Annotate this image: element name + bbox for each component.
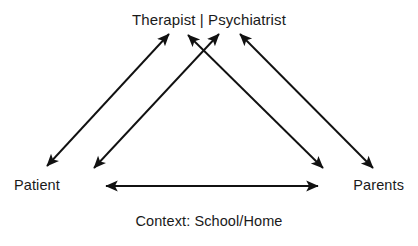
- node-label-patient: Patient: [14, 178, 60, 193]
- node-label-parents: Parents: [353, 178, 404, 193]
- edge-patient-therapist-outer: [47, 34, 169, 166]
- edge-patient-therapist-inner: [94, 34, 219, 168]
- node-label-therapist-psychiatrist: Therapist | Psychiatrist: [132, 12, 286, 27]
- diagram-caption-context: Context: School/Home: [135, 214, 282, 229]
- edge-parents-therapist-inner: [188, 35, 323, 168]
- diagram-canvas: Therapist | Psychiatrist Patient Parents…: [0, 0, 418, 246]
- arrow-layer: [0, 0, 418, 246]
- edge-parents-therapist-outer: [240, 34, 373, 168]
